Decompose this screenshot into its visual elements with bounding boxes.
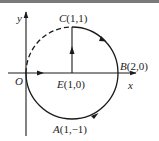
- y-axis-label: y: [16, 12, 22, 24]
- circle-diagram: y x O C(1,1) B(2,0) E(1,0) A(1,−1): [0, 0, 159, 141]
- dashed-arc: [26, 27, 72, 73]
- point-A-label: A(1,−1): [52, 123, 87, 136]
- point-B-label: B(2,0): [120, 60, 148, 73]
- point-C-label: C(1,1): [59, 12, 88, 25]
- x-axis-direction-arrow-icon: [37, 71, 44, 76]
- origin-label: O: [15, 75, 23, 87]
- x-axis-label: x: [127, 79, 133, 91]
- segment-EC-arrow-icon: [70, 46, 75, 54]
- point-E-label: E(1,0): [56, 78, 85, 91]
